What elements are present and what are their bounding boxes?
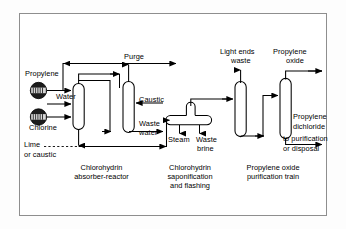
vessel-chlorohydrin-absorber-reactor: [73, 83, 84, 129]
label-water-feed: Water: [56, 93, 76, 102]
label-propylene-feed: Propylene: [25, 70, 59, 79]
label-lime-line1: Lime: [24, 141, 40, 150]
diagram-page: Propylene Water Chlorine Lime or caustic…: [0, 0, 346, 229]
line-col1-overhead: [79, 74, 118, 84]
caption-unit1-line2: absorber-reactor: [55, 172, 148, 181]
vessel-light-ends-column: [235, 81, 246, 136]
compressor-icon-propylene: [30, 82, 46, 98]
line-propylene-oxide-product: [286, 71, 322, 80]
caption-unit2-line3: and flashing: [150, 181, 230, 190]
label-waste-brine-line2: brine: [197, 145, 214, 154]
label-purge: Purge: [124, 53, 144, 62]
label-propylene-oxide-line2: oxide: [286, 57, 304, 66]
label-to-purification-line2: or disposal: [283, 145, 319, 154]
caption-unit3-line2: purification train: [228, 172, 318, 181]
label-propylene-dichloride-line2: dichloride: [293, 123, 325, 132]
label-waste-water-line2: water: [139, 129, 157, 138]
label-chlorine-feed: Chlorine: [29, 124, 57, 133]
caption-unit3-line1: Propylene oxide: [228, 163, 318, 172]
line-saponifier-overhead: [191, 99, 231, 106]
label-caustic: Caustic: [139, 96, 164, 105]
label-lime-line2: or caustic: [24, 151, 56, 160]
label-propylene-dichloride-line1: Propylene: [293, 113, 327, 122]
label-to-purification-line1: to purification: [283, 135, 328, 144]
caption-unit2-line2: saponification: [150, 172, 230, 181]
vessel-saponification-drum: [166, 102, 212, 124]
vessel-wash-column: [123, 81, 134, 132]
vessel-propylene-oxide-column: [280, 78, 291, 138]
label-light-ends-line2: waste: [231, 57, 251, 66]
caption-unit1-line1: Chlorohydrin: [55, 163, 148, 172]
caption-unit2-line1: Chlorohydrin: [150, 163, 230, 172]
label-steam: Steam: [168, 136, 190, 145]
